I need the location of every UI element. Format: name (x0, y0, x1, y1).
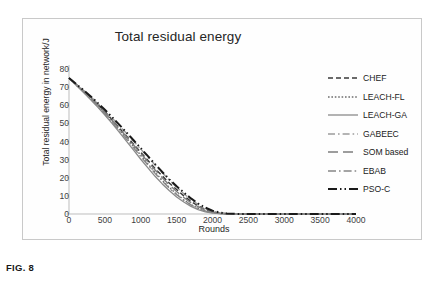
legend-label: GABEEC (363, 129, 399, 139)
legend-label: PSO-C (363, 184, 390, 194)
legend-line-swatch (328, 129, 358, 139)
chart-legend: CHEFLEACH-FLLEACH-GAGABEECSOM basedEBABP… (328, 69, 432, 199)
legend-item[interactable]: PSO-C (328, 180, 432, 199)
series-line (69, 78, 356, 214)
legend-label: LEACH-FL (363, 92, 405, 102)
series-line (69, 78, 356, 214)
legend-line-swatch (328, 184, 358, 194)
legend-label: LEACH-GA (363, 110, 407, 120)
series-line (69, 78, 356, 214)
legend-line-swatch (328, 92, 358, 102)
series-line (69, 78, 356, 214)
legend-item[interactable]: SOM based (328, 143, 432, 162)
y-tick-label: 70 (47, 82, 69, 92)
legend-line-swatch (328, 166, 358, 176)
series-line (69, 78, 356, 214)
y-tick-label: 20 (47, 173, 69, 183)
legend-item[interactable]: EBAB (328, 162, 432, 181)
y-tick-label: 10 (47, 191, 69, 201)
legend-item[interactable]: LEACH-GA (328, 106, 432, 125)
x-axis-title: Rounds (69, 224, 359, 234)
legend-label: SOM based (363, 147, 408, 157)
y-tick-label: 40 (47, 137, 69, 147)
series-line (69, 78, 356, 214)
figure-container: Total residual energy Total residual ene… (22, 18, 422, 240)
y-axis-ticks: 01020304050607080 (45, 19, 69, 241)
legend-item[interactable]: GABEEC (328, 125, 432, 144)
y-tick-label: 50 (47, 118, 69, 128)
legend-line-swatch (328, 73, 358, 83)
series-line (69, 78, 356, 214)
legend-label: EBAB (363, 166, 386, 176)
legend-item[interactable]: CHEF (328, 69, 432, 88)
figure-caption: FIG. 8 (6, 262, 34, 273)
y-tick-label: 30 (47, 155, 69, 165)
legend-item[interactable]: LEACH-FL (328, 88, 432, 107)
y-tick-label: 80 (47, 64, 69, 74)
legend-label: CHEF (363, 73, 386, 83)
legend-line-swatch (328, 147, 358, 157)
legend-line-swatch (328, 110, 358, 120)
y-tick-label: 60 (47, 100, 69, 110)
